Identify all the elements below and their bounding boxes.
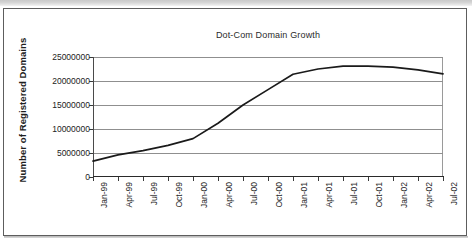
scan-artifact-edge (0, 5, 472, 6)
x-axis-tick-mark (318, 177, 319, 181)
x-axis-tick-mark (418, 177, 419, 181)
x-axis-tick-mark (218, 177, 219, 181)
x-axis-tick-labels: Jan-99Apr-99Jul-99Oct-99Jan-00Apr-00Jul-… (93, 182, 443, 232)
y-axis-tick-label: 0 (28, 172, 90, 182)
x-axis-tick-mark (118, 177, 119, 181)
data-series-line (93, 57, 443, 177)
x-axis-tick-label: Jul-99 (147, 182, 161, 232)
y-axis-tick-label: 15000000 (28, 100, 90, 110)
x-axis-tick-label: Oct-99 (172, 182, 186, 232)
x-axis-tick-label: Apr-99 (122, 182, 136, 232)
x-axis-tick-label: Apr-01 (322, 182, 336, 232)
y-axis-tick-label: 20000000 (28, 76, 90, 86)
chart-page: Dot-Com Domain Growth Number of Register… (0, 0, 472, 240)
x-axis-tick-label: Jan-00 (197, 182, 211, 232)
x-axis-tick-label: Jul-00 (247, 182, 261, 232)
x-axis-tick-label: Apr-02 (422, 182, 436, 232)
x-axis-tick-label: Jul-02 (447, 182, 461, 232)
y-axis-tick-labels: 0500000010000000150000002000000025000000 (26, 57, 90, 177)
x-axis-tick-mark (168, 177, 169, 181)
x-axis-tick-mark (443, 177, 444, 181)
x-axis-tick-mark (243, 177, 244, 181)
x-axis-tick-label: Oct-00 (272, 182, 286, 232)
x-axis-tick-mark (393, 177, 394, 181)
chart-title: Dot-Com Domain Growth (93, 30, 443, 40)
x-axis-tick-label: Oct-01 (372, 182, 386, 232)
x-axis-tick-mark (93, 177, 94, 181)
series-line-registered-domains (93, 66, 443, 161)
x-axis-tick-mark (193, 177, 194, 181)
x-axis-tick-mark (368, 177, 369, 181)
x-axis-tick-mark (293, 177, 294, 181)
x-axis-tick-label: Jul-01 (347, 182, 361, 232)
plot-area (93, 57, 443, 177)
x-axis-tick-label: Jan-01 (297, 182, 311, 232)
x-axis-tick-marks (93, 177, 443, 181)
x-axis-tick-mark (268, 177, 269, 181)
x-axis-tick-mark (343, 177, 344, 181)
y-axis-tick-label: 10000000 (28, 124, 90, 134)
y-axis-tick-label: 25000000 (28, 52, 90, 62)
y-axis-tick-label: 5000000 (28, 148, 90, 158)
x-axis-tick-label: Jan-99 (97, 182, 111, 232)
figure-frame-shadow (4, 236, 468, 238)
x-axis-tick-label: Jan-02 (397, 182, 411, 232)
x-axis-tick-mark (143, 177, 144, 181)
x-axis-tick-label: Apr-00 (222, 182, 236, 232)
